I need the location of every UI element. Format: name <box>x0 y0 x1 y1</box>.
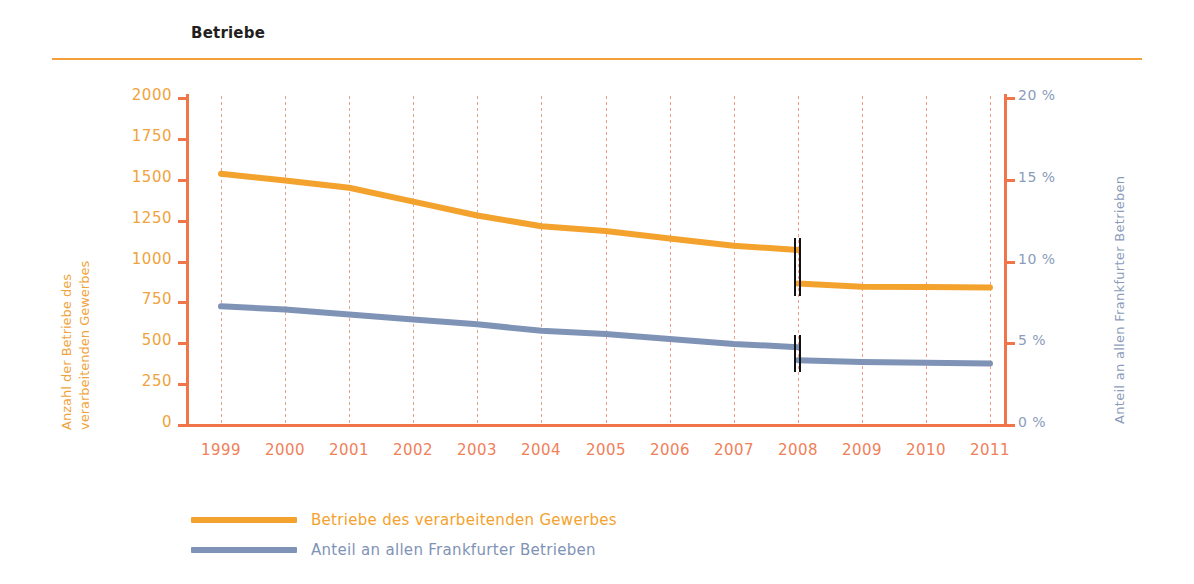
series-break-bar-1-0 <box>794 335 796 372</box>
chart-page: Betriebe Anzahl der Betriebe des verarbe… <box>0 0 1194 584</box>
series-line-0-before-break <box>221 174 798 250</box>
series-break-bar-1-1 <box>799 335 801 372</box>
series-line-1-before-break <box>221 306 798 347</box>
series-line-0-after-break <box>798 283 990 287</box>
legend-item-0[interactable]: Betriebe des verarbeitenden Gewerbes <box>191 505 617 535</box>
legend-label-1: Anteil an allen Frankfurter Betrieben <box>311 541 596 559</box>
series-line-1-after-break <box>798 360 990 363</box>
series-break-bar-0-0 <box>794 238 796 296</box>
plot-area <box>0 0 1194 584</box>
legend-swatch-0 <box>191 517 297 523</box>
chart-legend: Betriebe des verarbeitenden GewerbesAnte… <box>191 505 617 565</box>
legend-swatch-1 <box>191 547 297 553</box>
legend-label-0: Betriebe des verarbeitenden Gewerbes <box>311 511 617 529</box>
legend-item-1[interactable]: Anteil an allen Frankfurter Betrieben <box>191 535 617 565</box>
series-break-bar-0-1 <box>799 238 801 296</box>
